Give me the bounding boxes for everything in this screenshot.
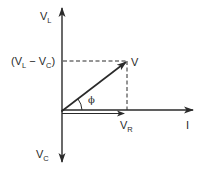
i-label: I: [186, 119, 189, 131]
phasor-diagram: VL (VL − VC) V ϕ VR I VC: [0, 0, 203, 170]
phi-label: ϕ: [88, 94, 95, 105]
phi-angle-arc: [78, 99, 82, 110]
v-label: V: [131, 56, 139, 68]
v-r-label: VR: [120, 119, 133, 134]
v-l-minus-v-c-label: (VL − VC): [11, 55, 55, 70]
v-l-label: VL: [40, 10, 52, 25]
v-c-label: VC: [36, 148, 49, 163]
